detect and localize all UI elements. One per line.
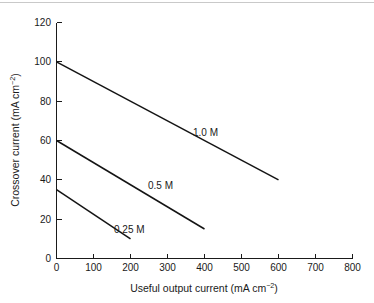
series-label-0-25-M: 0.25 M <box>114 224 145 235</box>
y-tick-label-60: 60 <box>40 135 52 146</box>
x-tick-label-500: 500 <box>233 262 250 273</box>
series-label-1-0-M: 1.0 M <box>193 127 218 138</box>
x-axis-title-superscript: −2 <box>266 281 274 290</box>
y-tick-label-100: 100 <box>34 56 51 67</box>
y-axis-title-superscript: −2 <box>8 77 17 85</box>
y-tick-label-40: 40 <box>40 174 52 185</box>
x-tick-label-300: 300 <box>159 262 176 273</box>
series-line-1-0-M <box>57 62 279 180</box>
series-label-0-5-M: 0.5 M <box>148 180 173 191</box>
y-axis-title-group: Crossover current (mA cm−2) <box>8 73 21 207</box>
x-tick-marks <box>57 254 353 259</box>
x-tick-label-100: 100 <box>85 262 102 273</box>
x-tick-label-0: 0 <box>54 262 60 273</box>
series-annotations: 1.0 M 0.5 M 0.25 M <box>114 127 218 235</box>
x-axis-title-group: Useful output current (mA cm−2) <box>130 281 278 294</box>
x-tick-label-200: 200 <box>122 262 139 273</box>
series-lines <box>57 62 279 239</box>
y-tick-label-80: 80 <box>40 96 52 107</box>
y-tick-label-20: 20 <box>40 214 52 225</box>
x-tick-labels: 0 100 200 300 400 500 600 700 800 <box>54 262 362 273</box>
y-axis-title-tail: ) <box>9 73 21 77</box>
y-tick-labels: 0 20 40 60 80 100 120 <box>34 17 51 264</box>
y-tick-label-0: 0 <box>45 253 51 264</box>
y-axis-title: Crossover current (mA cm−2) <box>8 73 21 207</box>
x-tick-label-800: 800 <box>344 262 361 273</box>
x-tick-label-600: 600 <box>270 262 287 273</box>
crossover-current-chart: 0 100 200 300 400 500 600 700 800 0 20 4… <box>0 0 374 303</box>
x-axis-title-main: Useful output current (mA cm <box>130 282 266 294</box>
x-axis-title-tail: ) <box>274 282 278 294</box>
figure-container: 0 100 200 300 400 500 600 700 800 0 20 4… <box>0 0 374 303</box>
series-line-0-5-M <box>57 141 205 230</box>
x-tick-label-400: 400 <box>196 262 213 273</box>
y-tick-label-120: 120 <box>34 17 51 28</box>
y-axis-title-main: Crossover current (mA cm <box>9 85 21 207</box>
x-axis-title: Useful output current (mA cm−2) <box>130 281 278 294</box>
x-tick-label-700: 700 <box>307 262 324 273</box>
